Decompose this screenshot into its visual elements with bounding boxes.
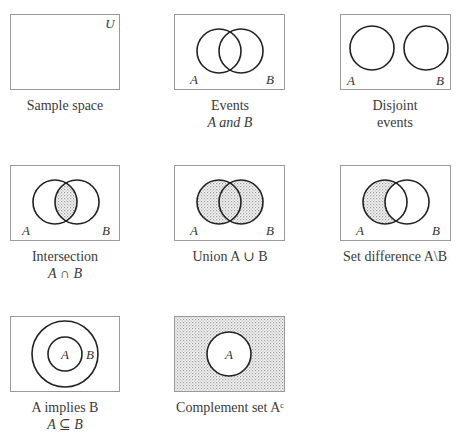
caption-set-difference: Set difference A\B [330,248,458,265]
panel-intersection: A B [10,165,120,241]
caption-line2: A ⊆ B [5,416,125,433]
caption-disjoint: Disjoint events [335,97,455,131]
caption-line2: events [335,114,455,131]
caption-line2: A and B [170,114,290,131]
union-diagram: A B [174,165,285,241]
caption-complement: Complement set Aᶜ [160,399,300,416]
caption-line1: Events [170,97,290,114]
panel-union: A B [174,165,285,241]
label-b: B [266,223,274,238]
caption-line1: Set difference A\B [330,248,458,265]
panel-sample-space: U [10,14,120,90]
caption-sample-space: Sample space [0,97,130,114]
set-difference-diagram: A B [340,165,451,241]
panel-set-difference: A B [340,165,451,241]
caption-events: Events A and B [170,97,290,131]
label-a: A [189,72,198,87]
caption-line2: A ∩ B [5,265,125,282]
caption-line1: Union A ∪ B [170,248,290,265]
label-b: B [86,347,94,362]
label-a: A [355,223,364,238]
label-a: A [60,347,69,362]
label-b: B [266,72,274,87]
caption-line1: Complement set Aᶜ [160,399,300,416]
panel-implies: A B [10,316,120,392]
label-b: B [102,223,110,238]
caption-intersection: Intersection A ∩ B [5,248,125,282]
caption-line1: A implies B [5,399,125,416]
label-a: A [21,223,30,238]
label-a: A [224,347,233,362]
label-b: B [436,73,444,88]
caption-implies: A implies B A ⊆ B [5,399,125,433]
caption-line1: Sample space [0,97,130,114]
label-a: A [346,73,355,88]
label-b: B [432,223,440,238]
events-diagram: A B [174,14,285,90]
intersection-diagram: A B [10,165,120,241]
implies-diagram: A B [10,316,120,392]
caption-line1: Disjoint [335,97,455,114]
panel-complement: A [174,316,285,392]
panel-disjoint: A B [340,14,451,90]
caption-union: Union A ∪ B [170,248,290,265]
universe-label: U [105,16,116,31]
panel-events: A B [174,14,285,90]
label-a: A [189,223,198,238]
caption-line1: Intersection [5,248,125,265]
complement-diagram: A [174,316,285,392]
disjoint-diagram: A B [340,14,451,90]
sample-space-diagram: U [10,14,120,90]
